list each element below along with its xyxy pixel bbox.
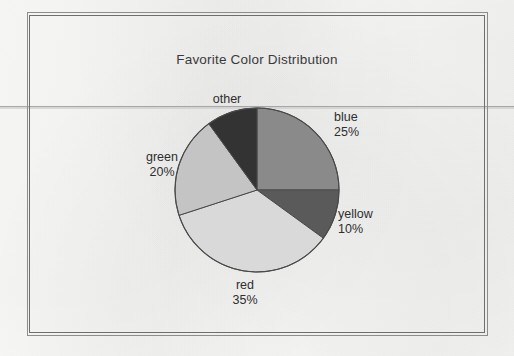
pie-label-blue-name: blue [334,110,359,125]
pie-slice-blue [257,108,339,190]
pie-label-blue: blue 25% [334,110,359,140]
pie-label-yellow-percent: 10% [338,222,373,237]
pie-label-green: green 20% [128,150,196,180]
pie-label-other-name: other [196,92,258,107]
pie-label-yellow: yellow 10% [338,207,373,237]
pie-label-red-percent: 35% [205,293,285,308]
pie-label-red-name: red [205,278,285,293]
pie-label-blue-percent: 25% [334,125,359,140]
pie-label-green-percent: 20% [128,165,196,180]
pie-label-other: other [196,92,258,107]
pie-slice-group [175,108,339,272]
pie-label-green-name: green [128,150,196,165]
pie-label-red: red 35% [205,278,285,308]
scanned-chart-page: Favorite Color Distribution blue 25% yel… [0,0,514,356]
pie-label-yellow-name: yellow [338,207,373,222]
